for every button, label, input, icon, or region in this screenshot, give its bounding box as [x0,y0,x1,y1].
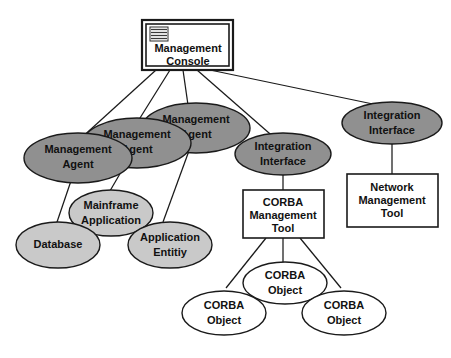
corba-object-left-label-line2: Object [207,314,242,326]
node-network-management-tool[interactable]: Network Management Tool [347,174,438,227]
edge-console-to-integration-right [210,70,392,108]
node-application-entity[interactable]: Application Entitiy [128,222,212,268]
corba-object-center-label-line2: Object [268,284,303,296]
corba-management-tool-label-line2: Management [249,209,317,221]
network-management-tool-label-line2: Management [358,194,426,206]
integration-interface-center-label-line2: Interface [260,155,306,167]
node-corba-object-left[interactable]: CORBA Object [182,291,266,335]
application-entity-label-line1: Application [140,231,200,243]
management-console-label-line1: Management [154,42,222,54]
node-corba-object-right[interactable]: CORBA Object [302,291,386,335]
corba-management-tool-label-line1: CORBA [263,196,303,208]
mainframe-application-label-line1: Mainframe [83,199,138,211]
node-corba-management-tool[interactable]: CORBA Management Tool [243,190,324,238]
corba-management-tool-label-line3: Tool [272,222,294,234]
node-integration-interface-right[interactable]: Integration Interface [342,102,442,144]
corba-object-left-label-line1: CORBA [204,299,244,311]
integration-interface-center-label-line1: Integration [255,140,312,152]
window-list-icon [150,27,168,41]
node-management-agent-left[interactable]: Management Agent [24,133,132,183]
management-console-label-line2: Console [166,55,209,67]
application-entity-label-line2: Entitiy [153,246,187,258]
database-label: Database [34,238,83,250]
management-agent-mid-label-line1: Management [103,128,171,140]
management-agent-left-label-line2: Agent [62,158,94,170]
corba-object-center-label-line1: CORBA [265,269,305,281]
corba-object-right-label-line2: Object [327,314,362,326]
management-agent-left-label-line1: Management [44,143,112,155]
integration-interface-right-label-line2: Interface [369,124,415,136]
node-integration-interface-center[interactable]: Integration Interface [235,133,331,175]
diagram-canvas: Integration Interface Network Management… [0,0,451,358]
node-database[interactable]: Database [16,222,100,268]
corba-object-right-label-line1: CORBA [324,299,364,311]
network-management-tool-label-line3: Tool [381,207,403,219]
architecture-diagram: Integration Interface Network Management… [0,0,451,358]
integration-interface-right-label-line1: Integration [364,109,421,121]
management-agent-right-label-line1: Management [162,113,230,125]
node-management-console[interactable]: Management Console [142,20,233,70]
network-management-tool-label-line1: Network [370,181,414,193]
mainframe-application-label-line2: Application [81,214,141,226]
